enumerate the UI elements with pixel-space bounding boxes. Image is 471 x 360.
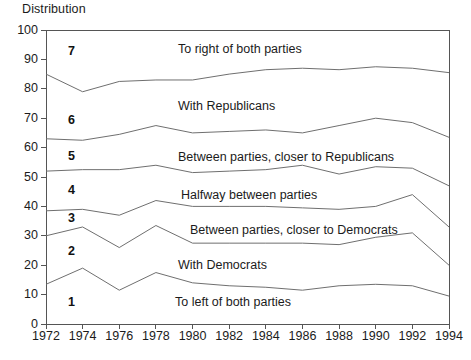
x-tick-1994: 1994: [435, 330, 463, 343]
band-boundary-5: [46, 118, 449, 140]
band-label-6: With Republicans: [178, 100, 275, 113]
x-tick-1986: 1986: [289, 330, 317, 343]
band-number-3: 3: [68, 212, 75, 225]
band-label-2: With Democrats: [178, 259, 267, 272]
band-label-4: Halfway between parties: [181, 189, 317, 202]
x-tick-1990: 1990: [362, 330, 390, 343]
band-label-7: To right of both parties: [178, 43, 302, 56]
x-tick-1976: 1976: [105, 330, 133, 343]
band-label-1: To left of both parties: [175, 296, 291, 309]
x-tick-1978: 1978: [142, 330, 170, 343]
band-label-5: Between parties, closer to Republicans: [178, 151, 394, 164]
x-tick-1974: 1974: [69, 330, 97, 343]
band-boundary-4: [46, 165, 449, 186]
x-tick-1988: 1988: [325, 330, 353, 343]
distribution-area-chart: Distribution 0102030405060708090100 1972…: [0, 0, 471, 360]
x-tick-1982: 1982: [215, 330, 243, 343]
chart-axes: [41, 30, 449, 329]
band-number-1: 1: [68, 296, 75, 309]
band-number-2: 2: [68, 245, 75, 258]
x-tick-1992: 1992: [398, 330, 426, 343]
band-boundary-6: [46, 67, 449, 92]
band-number-7: 7: [68, 45, 75, 58]
x-tick-1972: 1972: [32, 330, 60, 343]
x-tick-1984: 1984: [252, 330, 280, 343]
band-boundary-1: [46, 268, 449, 296]
band-number-5: 5: [68, 150, 75, 163]
band-label-3: Between parties, closer to Democrats: [190, 224, 398, 237]
band-number-4: 4: [68, 184, 75, 197]
x-tick-1980: 1980: [179, 330, 207, 343]
band-number-6: 6: [68, 114, 75, 127]
